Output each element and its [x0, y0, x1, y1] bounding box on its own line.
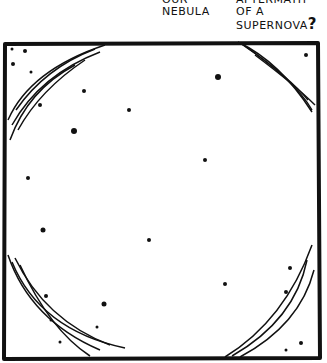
frame: [4, 43, 320, 359]
ejecta-arc-bottom-left: [8, 255, 125, 356]
nebula-sketch: [0, 0, 327, 363]
ejecta-arc-bottom-right: [225, 245, 314, 357]
ejecta-arc-top-right: [238, 42, 315, 112]
ejecta-arc-top-left: [8, 45, 105, 140]
star-dots: [11, 48, 309, 352]
